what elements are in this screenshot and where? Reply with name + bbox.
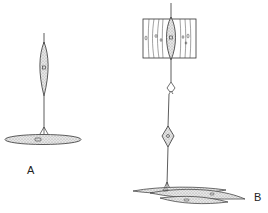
cell-b-axon-middle bbox=[168, 94, 169, 127]
panel-a bbox=[5, 33, 81, 145]
panel-label-b: B bbox=[254, 191, 261, 203]
cell-b-axon-lower bbox=[167, 147, 168, 185]
panel-label-a: A bbox=[27, 164, 34, 176]
panel-b bbox=[133, 3, 245, 204]
illustration bbox=[0, 0, 268, 213]
muscle-cell-a bbox=[5, 135, 81, 145]
diamond-cell bbox=[162, 126, 174, 147]
junction bbox=[167, 82, 175, 94]
muscle-cells-b bbox=[133, 187, 245, 204]
